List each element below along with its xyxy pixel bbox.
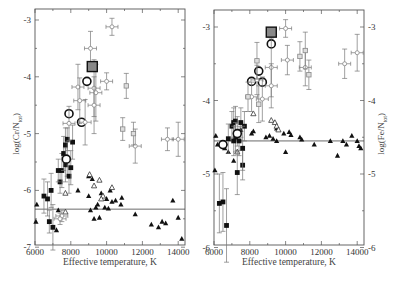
gray-diamond-marker: [58, 217, 62, 221]
cr-abundance-panel: 60008000100001200014000-3-4-5-6-7: [24, 9, 190, 257]
triangle-marker: [102, 205, 107, 210]
triangle-marker: [113, 198, 118, 203]
open-circle-marker: [233, 130, 241, 138]
triangle-marker: [133, 211, 138, 216]
highlighted-square-marker: [266, 27, 276, 37]
gray-square-marker: [257, 102, 261, 106]
gray-diamond-marker: [285, 58, 289, 62]
square-marker: [49, 188, 54, 193]
square-marker: [231, 139, 236, 144]
gray-diamond-marker: [355, 51, 359, 55]
gray-diamond-marker: [88, 46, 92, 50]
square-marker: [47, 219, 52, 224]
triangle-marker: [328, 138, 333, 143]
triangle-marker: [159, 219, 164, 224]
triangle-marker: [267, 133, 272, 138]
triangle-marker: [86, 193, 91, 198]
x-tick-label: 12000: [310, 247, 333, 257]
square-marker: [226, 136, 231, 141]
gray-diamond-marker: [92, 103, 96, 107]
y-tick-label: -3: [24, 15, 32, 25]
triangle-marker: [281, 131, 286, 136]
right-x-axis-title: Effective temperature, K: [214, 257, 364, 267]
y-tick-label: -7: [24, 242, 32, 252]
gray-square-marker: [307, 73, 311, 77]
left-y-axis-title-main: log(Cr/N: [11, 122, 21, 155]
y-tick-label: -5: [203, 169, 211, 179]
triangle-marker: [335, 153, 340, 158]
gray-diamond-marker: [110, 25, 114, 29]
square-marker: [56, 168, 61, 173]
x-tick-label: 14000: [346, 247, 369, 257]
triangle-marker: [95, 202, 100, 207]
x-tick-label: 10000: [95, 247, 118, 257]
gray-diamond-marker: [67, 121, 71, 125]
gray-diamond-marker: [260, 97, 264, 101]
triangle-marker: [179, 236, 184, 241]
open-circle-marker: [255, 67, 263, 75]
right-y-axis-title: log(Fe/Ntot): [376, 79, 388, 189]
gray-diamond-marker: [343, 62, 347, 66]
left-y-axis-title-close: ): [11, 113, 21, 116]
triangle-marker: [176, 215, 181, 220]
left-x-axis-title: Effective temperature, K: [35, 257, 185, 267]
gray-diamond-marker: [78, 99, 82, 103]
gray-square-marker: [298, 54, 302, 58]
triangle-marker: [91, 216, 96, 221]
y-tick-label: -4: [203, 96, 211, 106]
triangle-marker: [283, 149, 288, 154]
triangle-marker: [349, 133, 354, 138]
gray-square-marker: [303, 48, 307, 52]
y-tick-label-right: -6: [368, 243, 376, 253]
open-circle-marker: [219, 141, 227, 149]
figure: 60008000100001200014000-3-4-5-6-7 600080…: [0, 0, 395, 282]
gray-square-marker: [131, 131, 135, 135]
gray-diamond-marker: [269, 84, 273, 88]
triangle-marker: [231, 158, 236, 163]
x-tick-label: 14000: [167, 247, 190, 257]
y-tick-label: -6: [24, 185, 32, 195]
square-marker: [237, 139, 242, 144]
triangle-marker: [156, 225, 161, 230]
open-triangle-marker: [269, 118, 274, 123]
square-marker: [68, 165, 73, 170]
right-y-axis-title-main: log(Fe/N: [376, 122, 386, 155]
triangle-marker: [312, 142, 317, 147]
triangle-marker: [97, 215, 102, 220]
open-triangle-marker: [97, 177, 102, 182]
left-y-axis-title-sub: tot: [17, 116, 23, 122]
triangle-marker: [88, 207, 93, 212]
y-tick-label: -5: [24, 129, 32, 139]
y-tick-label-right: -3: [368, 22, 376, 32]
square-marker: [235, 170, 240, 175]
open-circle-marker: [62, 155, 70, 163]
triangle-marker: [75, 188, 80, 193]
y-tick-label: -4: [24, 72, 32, 82]
gray-diamond-marker: [284, 26, 288, 30]
gray-square-marker: [255, 59, 259, 63]
gray-diamond-marker: [105, 79, 109, 83]
square-marker: [240, 146, 245, 151]
highlighted-square-marker: [87, 62, 97, 72]
open-circle-marker: [83, 77, 91, 85]
open-triangle-marker: [63, 209, 68, 214]
gray-diamond-marker: [176, 137, 180, 141]
gray-square-marker: [121, 127, 125, 131]
square-marker: [51, 225, 56, 230]
triangle-marker: [149, 222, 154, 227]
right-y-axis-title-close: ): [376, 113, 386, 116]
triangle-marker: [212, 168, 217, 173]
triangle-marker: [340, 138, 345, 143]
square-marker: [45, 197, 50, 202]
gray-diamond-marker: [94, 91, 98, 95]
gray-diamond-marker: [76, 85, 80, 89]
right-y-axis-title-sub: tot: [382, 116, 388, 122]
left-y-axis-title: log(Cr/Ntot): [11, 79, 23, 189]
gray-square-marker: [124, 84, 128, 88]
gray-diamond-marker: [165, 137, 169, 141]
square-marker: [224, 223, 229, 228]
y-tick-label: -3: [203, 22, 211, 32]
open-triangle-marker: [87, 172, 92, 177]
gray-diamond-marker: [83, 120, 87, 124]
open-triangle-marker: [91, 183, 96, 188]
